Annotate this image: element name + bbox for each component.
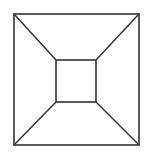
diagonal-top-left xyxy=(14,14,56,60)
diagonal-top-right xyxy=(96,14,139,60)
inner-square xyxy=(56,60,96,102)
diagram-canvas xyxy=(0,0,152,157)
frustum-diagram xyxy=(0,0,152,157)
diagonal-bottom-right xyxy=(96,102,139,145)
diagonal-bottom-left xyxy=(14,102,56,145)
